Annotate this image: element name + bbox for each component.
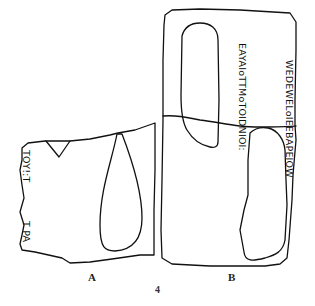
fragment-a-notch: [46, 141, 70, 157]
fragment-a-teardrop-hollow: [100, 134, 142, 251]
fragment-b-inscription-inner: EAYAIoTTMoTOIDNIOI:: [237, 43, 248, 151]
fragment-b-label: B: [228, 271, 235, 283]
fragments-drawing: [0, 0, 315, 306]
fragment-b-upper-hollow: [181, 23, 219, 147]
fragment-a-inscription-upper: TOY!:T: [21, 150, 32, 183]
fragment-b-inscription-edge: WEDEWELoIEEBAPEIOW: [284, 60, 295, 178]
figure-number: 4: [155, 284, 160, 295]
fragment-a-label: A: [88, 271, 96, 283]
fragment-a-inscription-lower: T PA: [21, 221, 32, 242]
